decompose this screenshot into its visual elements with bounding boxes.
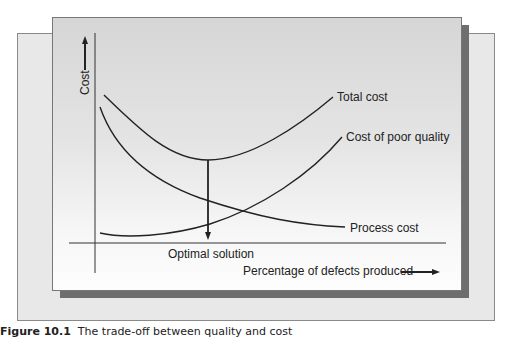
x-axis-label: Percentage of defects produced [243,264,413,278]
caption-text: The trade-off between quality and cost [78,325,292,338]
process-cost-label: Process cost [350,221,419,235]
optimal-label: Optimal solution [168,247,254,261]
poor-quality-label: Cost of poor quality [346,130,449,144]
y-axis-label: Cost [78,70,92,95]
figure-caption: Figure 10.1 The trade-off between qualit… [0,325,292,338]
poor-quality-curve [100,137,342,236]
total-cost-label: Total cost [337,90,388,104]
caption-number: Figure 10.1 [0,325,71,338]
total-cost-curve [104,95,333,160]
